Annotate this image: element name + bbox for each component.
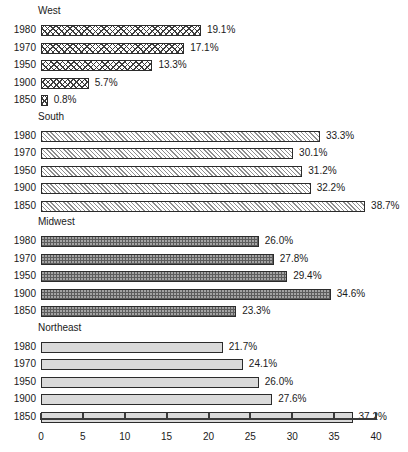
- bar-value-label: 27.8%: [280, 253, 308, 264]
- x-axis-tick-label: 10: [113, 431, 137, 442]
- bar-south-1950[interactable]: [41, 166, 302, 177]
- category-label: 1980: [4, 235, 36, 246]
- category-label: 1950: [4, 165, 36, 176]
- bar-value-label: 24.1%: [249, 358, 277, 369]
- category-label: 1900: [4, 288, 36, 299]
- bar-south-1970[interactable]: [41, 148, 293, 159]
- bar-value-label: 26.0%: [265, 235, 293, 246]
- bar-northeast-1900[interactable]: [41, 394, 272, 405]
- x-axis-tick: [375, 413, 377, 420]
- group-label-south: South: [38, 112, 64, 122]
- bar-value-label: 32.2%: [317, 182, 345, 193]
- bar-value-label: 21.7%: [229, 341, 257, 352]
- bar-value-label: 31.2%: [308, 165, 336, 176]
- x-axis-tick: [333, 413, 335, 420]
- bar-value-label: 38.7%: [371, 200, 399, 211]
- x-axis-tick-label: 0: [29, 431, 53, 442]
- bar-west-1950[interactable]: [41, 60, 152, 71]
- category-label: 1900: [4, 77, 36, 88]
- bar-south-1850[interactable]: [41, 201, 365, 212]
- bar-south-1900[interactable]: [41, 183, 311, 194]
- x-axis-tick: [249, 413, 251, 420]
- bar-northeast-1970[interactable]: [41, 359, 243, 370]
- category-label: 1980: [4, 341, 36, 352]
- bar-value-label: 30.1%: [299, 147, 327, 158]
- category-label: 1850: [4, 305, 36, 316]
- category-label: 1980: [4, 130, 36, 141]
- bar-value-label: 26.0%: [265, 376, 293, 387]
- grouped-bar-chart: West198019.1%197017.1%195013.3%19005.7%1…: [0, 0, 408, 452]
- category-label: 1970: [4, 147, 36, 158]
- bar-value-label: 27.6%: [278, 393, 306, 404]
- category-label: 1900: [4, 182, 36, 193]
- bar-midwest-1970[interactable]: [41, 254, 274, 265]
- x-axis-tick-label: 30: [280, 431, 304, 442]
- bar-value-label: 13.3%: [158, 59, 186, 70]
- category-label: 1950: [4, 270, 36, 281]
- bar-west-1850[interactable]: [41, 95, 48, 106]
- group-label-west: West: [38, 6, 61, 16]
- x-axis-tick: [166, 413, 168, 420]
- bar-value-label: 5.7%: [95, 77, 118, 88]
- x-axis-tick: [82, 413, 84, 420]
- bar-west-1980[interactable]: [41, 25, 201, 36]
- x-axis-tick-label: 5: [71, 431, 95, 442]
- bar-west-1900[interactable]: [41, 78, 89, 89]
- category-label: 1970: [4, 253, 36, 264]
- category-label: 1980: [4, 24, 36, 35]
- category-label: 1950: [4, 59, 36, 70]
- x-axis-tick: [208, 413, 210, 420]
- bar-value-label: 0.8%: [54, 94, 77, 105]
- category-label: 1950: [4, 376, 36, 387]
- group-label-northeast: Northeast: [38, 323, 81, 333]
- category-label: 1850: [4, 200, 36, 211]
- bar-midwest-1850[interactable]: [41, 306, 236, 317]
- bar-value-label: 29.4%: [293, 270, 321, 281]
- x-axis-tick: [40, 413, 42, 420]
- bar-south-1980[interactable]: [41, 131, 320, 142]
- x-axis-tick: [124, 413, 126, 420]
- category-label: 1970: [4, 358, 36, 369]
- bar-value-label: 17.1%: [190, 42, 218, 53]
- x-axis-tick-label: 20: [197, 431, 221, 442]
- x-axis-tick-label: 40: [364, 431, 388, 442]
- category-label: 1850: [4, 411, 36, 422]
- category-label: 1850: [4, 94, 36, 105]
- bar-value-label: 19.1%: [207, 24, 235, 35]
- bar-value-label: 23.3%: [242, 305, 270, 316]
- bar-west-1970[interactable]: [41, 43, 184, 54]
- group-label-midwest: Midwest: [38, 217, 75, 227]
- category-label: 1900: [4, 393, 36, 404]
- bar-value-label: 33.3%: [326, 130, 354, 141]
- x-axis-tick-label: 25: [238, 431, 262, 442]
- category-label: 1970: [4, 42, 36, 53]
- bar-midwest-1900[interactable]: [41, 289, 331, 300]
- x-axis-tick-label: 15: [155, 431, 179, 442]
- x-axis-tick-label: 35: [322, 431, 346, 442]
- bar-value-label: 34.6%: [337, 288, 365, 299]
- bar-northeast-1850[interactable]: [41, 412, 353, 423]
- bar-northeast-1980[interactable]: [41, 342, 223, 353]
- bar-northeast-1950[interactable]: [41, 377, 259, 388]
- bar-midwest-1950[interactable]: [41, 271, 287, 282]
- bar-midwest-1980[interactable]: [41, 236, 259, 247]
- x-axis-tick: [291, 413, 293, 420]
